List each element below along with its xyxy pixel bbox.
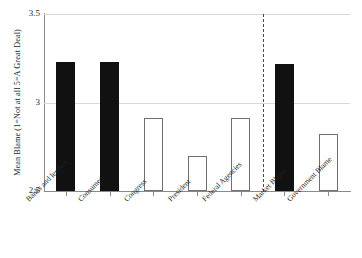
x-tick-1: [110, 192, 111, 196]
bar-congress: [144, 118, 163, 191]
y-tick-label-3.5: 3.5: [14, 8, 40, 18]
bar-president: [188, 156, 207, 191]
group-divider: [263, 14, 264, 192]
gridline-3.5: [44, 14, 350, 15]
x-tick-0: [66, 192, 67, 196]
bar-chart: Mean Blame (1=Not at all 5=A Great Deal)…: [0, 0, 362, 258]
gridline-3.0: [44, 103, 350, 104]
bar-consumers: [100, 62, 119, 191]
plot-area: [44, 14, 350, 191]
bar-federal-agencies: [231, 118, 250, 191]
x-tick-4: [241, 192, 242, 196]
y-tick-label-3: 3: [14, 97, 40, 107]
x-tick-3: [197, 192, 198, 196]
x-tick-2: [153, 192, 154, 196]
x-tick-6: [328, 192, 329, 196]
y-axis-tick-labels: 3.5 3 2.5: [10, 0, 40, 258]
